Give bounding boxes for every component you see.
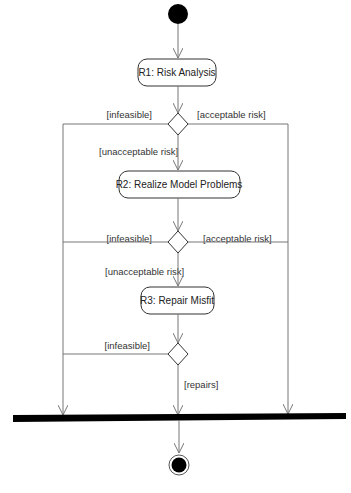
d1-down-guard: [unacceptable risk]: [99, 146, 178, 157]
activity-r3-label: R3: Repair Misfit: [140, 295, 214, 306]
decision-d1: [168, 113, 188, 135]
final-node: [169, 455, 189, 475]
activity-diagram: R1: Risk Analysis [infeasible] [acceptab…: [0, 0, 351, 493]
activity-r2-label: R2: Realize Model Problems: [116, 179, 243, 190]
d2-down-guard: [unacceptable risk]: [105, 266, 184, 277]
activity-r1-label: R1: Risk Analysis: [138, 67, 215, 78]
activity-r1: R1: Risk Analysis: [138, 59, 216, 86]
activity-r2: R2: Realize Model Problems: [116, 171, 243, 198]
activity-r3: R3: Repair Misfit: [140, 287, 214, 314]
decision-d2: [168, 231, 188, 253]
decision-d3: [168, 343, 188, 365]
initial-node: [168, 4, 188, 24]
d1-left-guard: [infeasible]: [107, 109, 152, 120]
d3-down-guard: [repairs]: [184, 379, 218, 390]
d3-left-guard: [infeasible]: [105, 340, 150, 351]
d1-right-guard: [acceptable risk]: [197, 109, 266, 120]
